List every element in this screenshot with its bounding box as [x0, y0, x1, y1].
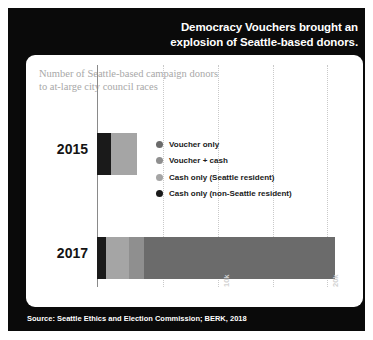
legend-swatch-icon-voucher-only: [156, 141, 163, 148]
legend-item-cash-seattle[interactable]: Cash only (Seattle resident): [156, 170, 292, 184]
x-tick-label-10k: 10k: [222, 274, 231, 287]
legend-item-voucher-only[interactable]: Voucher only: [156, 137, 292, 151]
source-note: Source: Seattle Ethics and Election Comm…: [27, 314, 247, 323]
legend-label-voucher-cash: Voucher + cash: [169, 156, 228, 165]
stacked-bar-2015: [97, 133, 137, 175]
x-tick-label-20k: 20k: [331, 274, 340, 287]
chart-panel: Democracy Vouchers brought an explosion …: [8, 8, 365, 331]
bar-segment-2017-voucher-cash: [129, 237, 144, 279]
bar-segment-2015-cash-non-seattle: [97, 133, 111, 175]
y-tick-label-2017: 2017: [30, 245, 88, 261]
y-tick-label-2015: 2015: [30, 141, 88, 157]
stacked-bar-2017: [97, 237, 335, 279]
legend-item-cash-non-seattle[interactable]: Cash only (non-Seattle resident): [156, 187, 292, 201]
plot-area: 2015 2017: [26, 55, 363, 307]
chart-title: Democracy Vouchers brought an explosion …: [158, 20, 358, 49]
legend-swatch-icon-cash-non-seattle: [156, 190, 163, 197]
legend-item-voucher-cash[interactable]: Voucher + cash: [156, 154, 292, 168]
chart-title-line-2: explosion of Seattle-based donors.: [158, 35, 358, 50]
bar-segment-2017-cash-seattle: [106, 237, 129, 279]
chart-card: Number of Seattle-based campaign donors …: [26, 55, 363, 307]
legend-swatch-icon-voucher-cash: [156, 157, 163, 164]
bar-segment-2017-voucher-only: [144, 237, 335, 279]
legend-swatch-icon-cash-seattle: [156, 174, 163, 181]
chart-figure: Democracy Vouchers brought an explosion …: [0, 0, 373, 340]
bar-segment-2017-cash-non-seattle: [97, 237, 106, 279]
legend-label-voucher-only: Voucher only: [169, 140, 219, 149]
chart-title-line-1: Democracy Vouchers brought an: [158, 20, 358, 35]
chart-legend: Voucher only Voucher + cash Cash only (S…: [156, 137, 292, 203]
bar-segment-2015-cash-seattle: [111, 133, 137, 175]
legend-label-cash-non-seattle: Cash only (non-Seattle resident): [169, 189, 292, 198]
legend-label-cash-seattle: Cash only (Seattle resident): [169, 173, 274, 182]
